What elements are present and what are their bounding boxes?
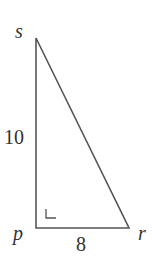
vertex-label-p: p xyxy=(11,222,23,245)
triangle-diagram: s p r 10 8 xyxy=(0,0,163,259)
side-label-sp: 10 xyxy=(4,126,24,148)
triangle-spr xyxy=(36,38,129,228)
vertex-label-r: r xyxy=(138,222,146,244)
side-label-pr: 8 xyxy=(76,233,86,255)
right-angle-marker xyxy=(46,209,56,218)
vertex-label-s: s xyxy=(15,20,23,42)
